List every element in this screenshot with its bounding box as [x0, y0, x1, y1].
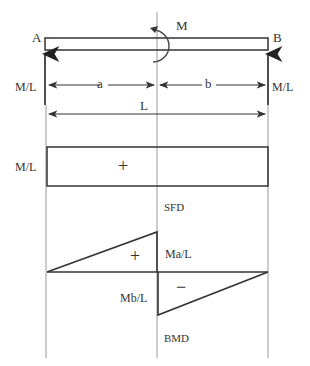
- beam-label-b: B: [273, 30, 282, 45]
- bmd-positive-sign: +: [130, 246, 140, 266]
- bmd-title: BMD: [164, 332, 189, 344]
- dimension-a-label: a: [97, 76, 103, 91]
- moment-arrow-icon: [153, 30, 169, 62]
- sfd-sign: +: [118, 156, 128, 176]
- dimension-b-label: b: [205, 76, 212, 91]
- bmd-negative-triangle: [158, 272, 268, 315]
- bmd-negative-label: Mb/L: [120, 291, 147, 305]
- left-reaction-label: M/L: [15, 80, 36, 94]
- beam-label-a: A: [32, 30, 42, 45]
- sfd-value-label: M/L: [15, 160, 36, 174]
- bmd-positive-triangle: [47, 232, 157, 272]
- moment-label: M: [176, 18, 188, 33]
- sfd-title: SFD: [164, 201, 184, 213]
- beam-diagram: A B M M/L M/L a b L M/L + SFD + − Ma/L M…: [0, 0, 310, 366]
- right-reaction-label: M/L: [272, 80, 293, 94]
- dimension-l-label: L: [140, 98, 148, 113]
- bmd-positive-label: Ma/L: [165, 247, 192, 261]
- bmd-negative-sign: −: [176, 277, 186, 297]
